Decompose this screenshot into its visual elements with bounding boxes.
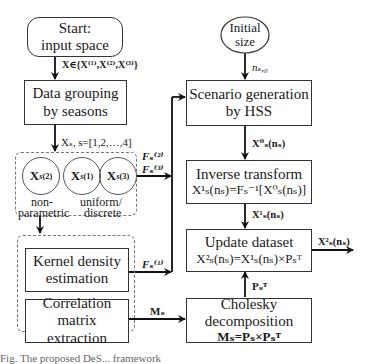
circle-symbol: X xyxy=(71,168,80,184)
update-formula: X²ₛ(nₛ)=X¹ₛ(nₛ)×Pₛᵀ xyxy=(196,252,301,267)
edge-label-ms: Mₛ xyxy=(150,305,165,318)
label-discrete: discrete xyxy=(84,206,121,221)
figure-caption: Fig. The proposed DeS... framework xyxy=(0,352,161,364)
edge-label-xs0: X⁰ₛ(nₛ) xyxy=(252,137,285,149)
inverse-line1: Inverse transform xyxy=(196,166,302,183)
circle-xs-2: Xs(2) xyxy=(22,157,60,195)
edge-label-input-set: X∈{X⁽¹⁾,X⁽²⁾,X⁽³⁾} xyxy=(62,59,138,70)
kde-line2: estimation xyxy=(46,270,109,287)
initial-size-node: Initial size xyxy=(221,21,269,50)
start-line1: Start: xyxy=(59,20,92,37)
correlation-line1: Correlation xyxy=(43,295,111,312)
correlation-line2: matrix extraction xyxy=(26,312,128,347)
cholesky-node: Cholesky decomposition Mₛ=Pₛ×Pₛᵀ xyxy=(186,298,312,343)
start-node: Start: input space xyxy=(27,17,123,57)
data-grouping-node: Data grouping by seasons xyxy=(24,80,127,125)
cholesky-line1: Cholesky xyxy=(221,296,278,313)
kernel-density-node: Kernel density estimation xyxy=(25,248,129,292)
kde-line1: Kernel density xyxy=(33,253,121,270)
scenario-generation-node: Scenario generation by HSS xyxy=(186,80,312,126)
grouping-line1: Data grouping xyxy=(32,85,118,102)
edge-label-fs3: Fₛ⁽³⁾ xyxy=(142,163,164,176)
initial-line2: size xyxy=(221,35,269,49)
inverse-transform-node: Inverse transform X¹ₛ(nₛ)=Fₛ⁻¹[X⁰ₛ(nₛ)] xyxy=(186,160,312,204)
edge-label-fs2: Fₛ⁽²⁾ xyxy=(142,150,164,163)
edge-label-pst: Pₛᵀ xyxy=(252,280,267,293)
edge-label-xs2: X²ₛ(nₛ) xyxy=(318,235,350,247)
update-dataset-node: Update dataset X²ₛ(nₛ)=X¹ₛ(nₛ)×Pₛᵀ xyxy=(186,229,312,272)
circle-symbol: X xyxy=(107,168,116,184)
start-line2: input space xyxy=(41,37,109,54)
initial-line1: Initial xyxy=(221,21,269,35)
cholesky-line2: decomposition xyxy=(205,313,293,330)
circle-xs-3: Xs(3) xyxy=(99,157,137,195)
scenario-line1: Scenario generation xyxy=(189,86,309,103)
label-parametric: parametric xyxy=(18,206,69,221)
circle-symbol: X xyxy=(30,168,39,184)
circle-xs-1: Xs(1) xyxy=(63,157,101,195)
grouping-line2: by seasons xyxy=(43,103,108,120)
correlation-node: Correlation matrix extraction xyxy=(25,299,129,343)
edge-label-fs1: Fₛ⁽¹⁾ xyxy=(142,258,164,271)
edge-label-xs1: X¹ₛ(nₛ) xyxy=(252,208,284,220)
cholesky-formula: Mₛ=Pₛ×Pₛᵀ xyxy=(217,330,280,345)
update-line1: Update dataset xyxy=(205,234,294,251)
edge-label-ns0: nₛ,₀ xyxy=(252,61,268,74)
inverse-formula: X¹ₛ(nₛ)=Fₛ⁻¹[X⁰ₛ(nₛ)] xyxy=(192,183,306,198)
scenario-line2: by HSS xyxy=(226,103,272,120)
edge-label-seasons: Xₛ, s=[1,2,…,4] xyxy=(61,136,132,149)
